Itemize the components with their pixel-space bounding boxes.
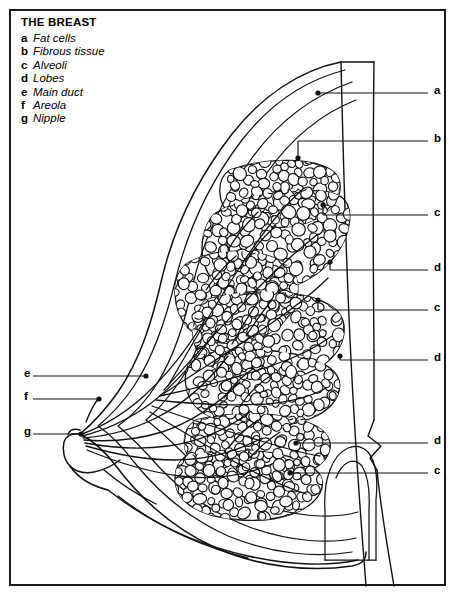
alveolus (175, 508, 186, 520)
alveolus (299, 521, 310, 533)
alveolus (343, 380, 358, 395)
legend-key: b (21, 45, 33, 58)
leader-dot-left-f (96, 396, 101, 401)
alveolus (350, 294, 360, 306)
alveolus (326, 153, 339, 166)
legend-label: Nipple (33, 112, 66, 125)
alveolus (221, 488, 233, 498)
alveolus (169, 317, 178, 324)
alveolus (281, 513, 296, 528)
alveolus (349, 283, 357, 292)
alveolus (351, 224, 359, 232)
alveolus (326, 285, 335, 295)
inframammary-fold (108, 490, 358, 564)
alveolus (258, 512, 265, 520)
alveolus (248, 165, 257, 173)
legend-title: THE BREAST (21, 16, 201, 28)
leader-dot-right-c (287, 470, 292, 475)
legend-label: Main duct (33, 86, 83, 99)
alveolus (186, 241, 198, 252)
alveolus (212, 504, 220, 512)
callout-label-left-0-e: e (24, 368, 30, 380)
legend-panel: THE BREAST aFat cellsbFibrous tissuecAlv… (21, 16, 201, 126)
alveolus (239, 520, 250, 531)
alveolus (305, 285, 314, 294)
legend-item-c: cAlveoli (21, 59, 201, 72)
legend-key: f (21, 99, 33, 112)
legend-label: Fibrous tissue (33, 45, 105, 58)
legend-item-b: bFibrous tissue (21, 45, 201, 58)
alveolus (291, 339, 304, 351)
alveolus (342, 259, 354, 271)
alveolus (209, 285, 222, 297)
alveolus (347, 234, 361, 249)
alveolus (316, 422, 327, 433)
leader-dot-left-g (78, 431, 83, 436)
legend-label: Fat cells (33, 32, 76, 45)
alveolus (333, 362, 345, 375)
alveolus (189, 209, 204, 224)
alveolus (193, 515, 207, 529)
alveolus (321, 176, 329, 185)
alveolus (338, 156, 354, 172)
alveolus (280, 327, 296, 343)
callout-label-right-2-c: c (434, 207, 440, 219)
legend-item-a: aFat cells (21, 32, 201, 45)
alveolus (319, 329, 327, 338)
alveolus (191, 359, 201, 371)
alveolus (197, 274, 208, 283)
alveolus (268, 206, 277, 214)
alveolus (349, 312, 357, 319)
alveolus (182, 513, 197, 528)
alveolus (183, 408, 191, 417)
leader-dot-right-a (315, 90, 320, 95)
alveolus (338, 286, 351, 299)
legend-item-f: fAreola (21, 99, 201, 112)
alveolus (340, 181, 356, 199)
legend-list: aFat cellsbFibrous tissuecAlveolidLobese… (21, 32, 201, 126)
leader-dot-right-d (293, 440, 298, 445)
alveolus (164, 442, 177, 453)
callout-label-left-1-f: f (24, 391, 28, 403)
alveolus (166, 316, 181, 330)
alveolus (326, 287, 337, 298)
alveolus (333, 250, 343, 260)
callout-label-left-2-g: g (24, 426, 31, 438)
legend-key: c (21, 59, 33, 72)
alveolus (329, 391, 337, 400)
alveolus (344, 364, 357, 378)
alveolus (350, 250, 360, 261)
alveolus (173, 455, 184, 467)
alveolus (270, 520, 285, 534)
legend-label: Lobes (33, 72, 64, 85)
callout-label-right-0-a: a (434, 85, 440, 97)
alveolus (183, 401, 192, 411)
alveolus (331, 293, 345, 307)
alveolus (320, 419, 328, 428)
alveolus (333, 287, 346, 301)
legend-item-g: gNipple (21, 112, 201, 125)
legend-label: Alveoli (33, 59, 67, 72)
alveolus (285, 235, 294, 245)
alveolus (183, 420, 193, 429)
alveolus (260, 391, 268, 398)
legend-item-e: eMain duct (21, 86, 201, 99)
alveolus (296, 206, 310, 221)
callout-label-right-7-c: c (434, 465, 440, 477)
alveolus (338, 272, 354, 289)
legend-key: d (21, 72, 33, 85)
callout-label-right-1-b: b (434, 133, 441, 145)
legend-key: a (21, 32, 33, 45)
alveolus (324, 418, 331, 427)
legend-item-d: dLobes (21, 72, 201, 85)
alveolus (327, 272, 341, 285)
rib-muscle-wedge (325, 446, 377, 560)
alveolus (329, 402, 342, 416)
callout-label-right-5-d: d (434, 352, 441, 364)
alveolus (345, 292, 357, 304)
alveolus (288, 523, 299, 533)
alveolus (167, 263, 177, 273)
alveolus (348, 282, 360, 293)
callout-label-right-4-c: c (434, 302, 440, 314)
alveolus (331, 426, 344, 437)
